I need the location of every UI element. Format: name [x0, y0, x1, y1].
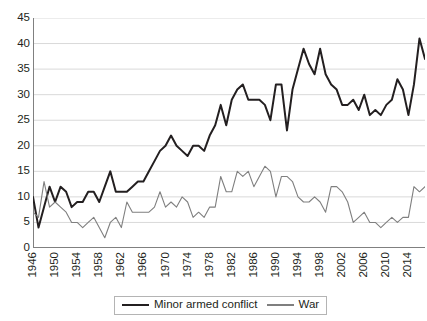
- y-axis-label-5: 5: [24, 217, 30, 229]
- y-axis-label-15: 15: [17, 166, 30, 178]
- legend-label-minor: Minor armed conflict: [154, 299, 258, 311]
- x-axis-label-1994: 1994: [292, 252, 304, 278]
- x-axis-labels: 1946195019541958196219661970197419781982…: [33, 252, 425, 296]
- x-axis-label-1974: 1974: [182, 252, 194, 278]
- chart-container: 051015202530354045 194619501954195819621…: [0, 0, 427, 321]
- y-axis-label-10: 10: [17, 191, 30, 203]
- x-axis-label-1998: 1998: [314, 252, 326, 278]
- data-series-group: [33, 38, 425, 237]
- x-axis-label-2006: 2006: [358, 252, 370, 278]
- plot-area: [33, 18, 425, 248]
- legend-line-swatch-minor: [122, 304, 149, 306]
- series-line-minor-armed-conflict: [33, 38, 425, 227]
- legend-item-war: War: [267, 299, 320, 311]
- legend-line-swatch-war: [267, 304, 294, 305]
- x-axis-label-1978: 1978: [204, 252, 216, 278]
- x-axis-label-1950: 1950: [49, 252, 61, 278]
- x-axis-label-1958: 1958: [93, 252, 105, 278]
- x-axis-label-1946: 1946: [27, 252, 39, 278]
- x-axis-label-1966: 1966: [137, 252, 149, 278]
- x-axis-label-2002: 2002: [336, 252, 348, 278]
- y-axis-label-45: 45: [17, 12, 30, 24]
- x-axis-label-1970: 1970: [160, 252, 172, 278]
- series-line-war: [33, 166, 425, 238]
- x-axis-label-2014: 2014: [402, 252, 414, 278]
- y-axis-label-20: 20: [17, 140, 30, 152]
- x-axis-label-1986: 1986: [248, 252, 260, 278]
- x-axis-label-1982: 1982: [226, 252, 238, 278]
- x-axis-label-1954: 1954: [71, 252, 83, 278]
- legend-item-minor-armed-conflict: Minor armed conflict: [122, 299, 258, 311]
- x-axis-label-1990: 1990: [270, 252, 282, 278]
- chart-svg: [33, 18, 425, 248]
- x-axis-label-2010: 2010: [380, 252, 392, 278]
- y-axis-label-40: 40: [17, 38, 30, 50]
- legend-label-war: War: [299, 299, 320, 311]
- y-axis-label-30: 30: [17, 89, 30, 101]
- y-axis-label-25: 25: [17, 114, 30, 126]
- chart-legend: Minor armed conflict War: [114, 296, 327, 315]
- x-axis-label-1962: 1962: [115, 252, 127, 278]
- y-axis-label-35: 35: [17, 63, 30, 75]
